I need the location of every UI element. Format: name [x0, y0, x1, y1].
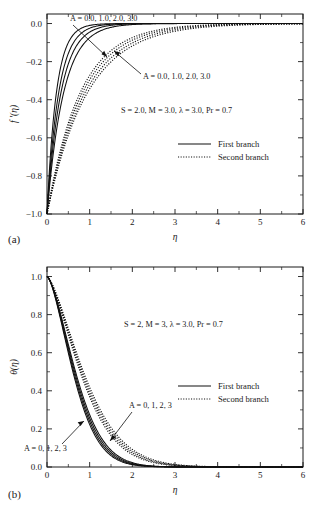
legend-label-first-branch: First branch: [218, 139, 260, 149]
svg-text:−0.8: −0.8: [26, 171, 43, 181]
curve: [47, 277, 303, 467]
x-tick-labels: 0123456: [45, 217, 306, 227]
svg-text:4: 4: [215, 470, 220, 480]
svg-text:5: 5: [258, 217, 263, 227]
axis-ticks: [47, 267, 303, 467]
arrow-b-first-branch: [62, 421, 84, 444]
svg-text:0.8: 0.8: [31, 310, 43, 320]
chart-svg-a: 0123456 0.0−0.2−0.4−0.6−0.8−1.0 η f ′(η)…: [0, 0, 317, 255]
plot-frame: [47, 267, 303, 467]
plot-area-b: 0123456 0.00.20.40.60.81.0: [31, 267, 306, 480]
legend-b: First branch Second branch: [178, 381, 270, 404]
svg-text:0.0: 0.0: [31, 462, 43, 472]
annotation-a-second-branch: A = 0.0, 1.0, 2.0, 3.0: [143, 72, 210, 81]
curve: [47, 277, 303, 467]
curve: [47, 24, 303, 214]
panel-tag-b: (b): [8, 488, 21, 501]
svg-text:−1.0: −1.0: [26, 209, 43, 219]
curve: [47, 24, 303, 214]
legend-label-second-branch: Second branch: [218, 152, 270, 162]
y-axis-label: f ′(η): [9, 105, 20, 123]
x-tick-labels: 0123456: [45, 470, 306, 480]
svg-text:2: 2: [130, 217, 135, 227]
plot-area-a: 0123456 0.0−0.2−0.4−0.6−0.8−1.0: [26, 14, 306, 227]
x-axis-label: η: [173, 485, 178, 495]
figure-container: 0123456 0.0−0.2−0.4−0.6−0.8−1.0 η f ′(η)…: [0, 0, 317, 510]
y-tick-labels: 0.00.20.40.60.81.0: [31, 272, 43, 472]
svg-text:−0.6: −0.6: [26, 133, 43, 143]
curve: [47, 277, 303, 467]
arrow-b-second-branch: [110, 412, 132, 441]
svg-text:−0.4: −0.4: [26, 95, 43, 105]
svg-text:4: 4: [215, 217, 220, 227]
curve: [47, 277, 303, 467]
svg-text:3: 3: [173, 217, 178, 227]
curve: [47, 24, 303, 214]
svg-text:1.0: 1.0: [31, 272, 43, 282]
svg-text:2: 2: [130, 470, 135, 480]
x-axis-label: η: [173, 232, 178, 242]
panel-tag-a: (a): [8, 233, 21, 246]
curve: [47, 24, 303, 214]
svg-text:6: 6: [301, 217, 306, 227]
y-tick-labels: 0.0−0.2−0.4−0.6−0.8−1.0: [26, 19, 43, 219]
curve: [47, 277, 303, 467]
chart-svg-b: 0123456 0.00.20.40.60.81.0 η θ(η) S = 2,…: [0, 255, 317, 510]
legend-label-first-branch: First branch: [218, 381, 260, 391]
chart-panel-a: 0123456 0.0−0.2−0.4−0.6−0.8−1.0 η f ′(η)…: [0, 0, 317, 255]
curve: [47, 277, 303, 467]
svg-text:−0.2: −0.2: [26, 57, 42, 67]
annotation-b-first-branch: A = 0, 1, 2, 3: [24, 444, 67, 453]
svg-text:6: 6: [301, 470, 306, 480]
legend-a: First branch Second branch: [178, 139, 270, 162]
svg-text:0: 0: [45, 217, 50, 227]
curve: [47, 277, 303, 467]
curve: [47, 277, 303, 467]
y-axis-label: θ(η): [9, 359, 20, 375]
curve: [47, 24, 303, 214]
annotation-b-parameters: S = 2, M = 3, λ = 3.0, Pr = 0.7: [124, 320, 223, 329]
legend-label-second-branch: Second branch: [218, 394, 270, 404]
curve: [47, 24, 303, 214]
annotation-a-parameters: S = 2.0, M = 3.0, λ = 3.0, Pr = 0.7: [121, 106, 232, 115]
svg-text:0.4: 0.4: [31, 386, 43, 396]
data-curves: [47, 277, 303, 467]
svg-text:1: 1: [87, 470, 92, 480]
arrow-a-second-branch: [114, 51, 141, 74]
data-curves: [47, 24, 303, 214]
svg-text:0: 0: [45, 470, 50, 480]
svg-text:1: 1: [87, 217, 92, 227]
svg-text:0.6: 0.6: [31, 348, 43, 358]
annotation-a-first-branch: A = 0.0, 1.0, 2.0, 3.0: [70, 14, 137, 23]
chart-panel-b: 0123456 0.00.20.40.60.81.0 η θ(η) S = 2,…: [0, 255, 317, 510]
svg-text:0.2: 0.2: [31, 424, 42, 434]
svg-text:3: 3: [173, 470, 178, 480]
annotation-b-second-branch: A = 0, 1, 2, 3: [129, 401, 172, 410]
curve: [47, 24, 303, 214]
svg-text:5: 5: [258, 470, 263, 480]
curve: [47, 24, 303, 214]
svg-text:0.0: 0.0: [31, 19, 43, 29]
